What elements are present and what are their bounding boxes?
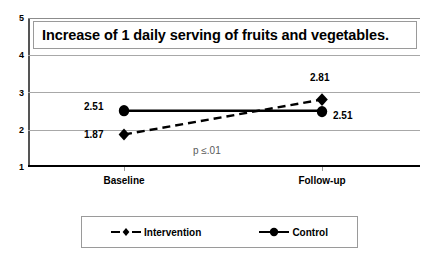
y-tick-label: 1 [2, 163, 24, 172]
legend-item-control[interactable]: Control [259, 226, 328, 238]
circle-icon [259, 226, 289, 238]
control-marker-baseline [119, 105, 129, 116]
y-tick-label: 2 [2, 125, 24, 134]
plot-area: Increase of 1 daily serving of fruits an… [28, 18, 420, 167]
y-tick-label: 4 [2, 51, 24, 60]
y-tick-label: 3 [2, 88, 24, 97]
intervention-value-label-baseline: 1.87 [84, 130, 103, 140]
legend-label-intervention: Intervention [144, 227, 201, 238]
diamond-icon [111, 226, 141, 238]
x-tick-label-followup: Follow-up [298, 175, 345, 186]
x-tick-mark-baseline [124, 167, 125, 171]
intervention-marker-followup [316, 93, 328, 106]
legend-label-control: Control [292, 227, 328, 238]
intervention-value-label-followup: 2.81 [310, 73, 329, 83]
control-marker-followup [317, 106, 327, 117]
line-chart: 5 4 3 2 1 Increase of 1 daily se [0, 0, 433, 262]
y-tick-label: 5 [2, 14, 24, 23]
legend: Intervention Control [81, 216, 358, 248]
control-value-label-followup: 2.51 [333, 111, 352, 121]
intervention-series-line [124, 100, 322, 135]
legend-item-intervention[interactable]: Intervention [111, 226, 201, 238]
p-value-annotation: p ≤.01 [193, 146, 221, 156]
chart-title-box: Increase of 1 daily serving of fruits an… [33, 21, 417, 49]
control-value-label-baseline: 2.51 [84, 102, 103, 112]
intervention-marker-baseline [119, 129, 130, 141]
page-title: Increase of 1 daily serving of fruits an… [42, 27, 389, 43]
y-axis-tick-labels: 5 4 3 2 1 [0, 18, 24, 167]
x-tick-label-baseline: Baseline [103, 175, 144, 186]
x-tick-mark-followup [322, 167, 323, 171]
